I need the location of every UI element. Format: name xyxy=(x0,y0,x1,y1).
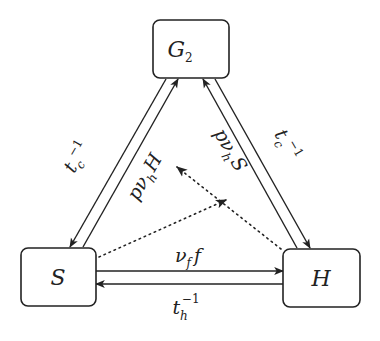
label-s-to-h: νff xyxy=(175,244,204,270)
svg-text:pνhH: pνhH xyxy=(122,149,170,206)
state-diagram: G2 S H tc−1 pνhH pνhS tc−1 νff th−1 xyxy=(0,0,380,341)
node-g2-sub: 2 xyxy=(185,51,193,65)
node-s-label: S xyxy=(50,265,65,290)
node-g2: G2 xyxy=(153,20,229,78)
label-h-to-s: th−1 xyxy=(172,292,199,323)
dotted-s-influence xyxy=(99,200,226,257)
svg-text:tc−1: tc−1 xyxy=(267,125,306,166)
label-s-to-g2: pνhH xyxy=(122,149,170,206)
label-g2-to-s: tc−1 xyxy=(58,137,97,178)
dotted-h-influence xyxy=(177,167,281,249)
svg-text:tc−1: tc−1 xyxy=(58,137,97,178)
node-g2-label: G xyxy=(167,37,185,62)
node-s: S xyxy=(21,248,96,306)
node-h-label: H xyxy=(310,266,331,291)
label-g2-to-h: tc−1 xyxy=(267,125,306,166)
node-h: H xyxy=(283,249,360,307)
